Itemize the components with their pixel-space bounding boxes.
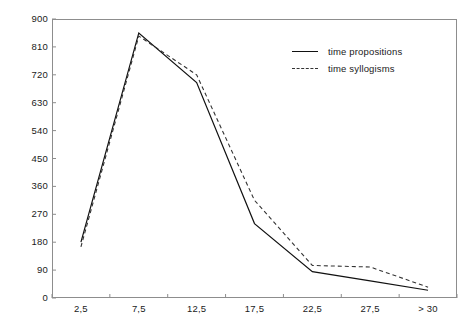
x-tick-label: > 30 [418,303,438,314]
y-tick-label: 0 [0,293,48,303]
x-tick-label: 12,5 [187,303,206,314]
legend-item-time-syllogisms: time syllogisms [292,61,432,78]
x-tick-label: 7,5 [132,303,146,314]
y-tick-label: 900 [0,14,48,24]
y-tick-label: 540 [0,126,48,136]
legend-swatch-solid-line-icon [292,51,318,52]
y-tick-label: 720 [0,70,48,80]
legend-item-time-propositions: time propositions [292,44,432,61]
x-tick-label: 17,5 [245,303,264,314]
x-axis: 2,57,512,517,522,527,5> 30 [0,303,474,323]
x-tick-label: 22,5 [303,303,322,314]
line-chart: 900810720630540450360270180900 2,57,512,… [0,0,474,330]
y-tick-label: 360 [0,181,48,191]
y-axis: 900810720630540450360270180900 [0,0,48,330]
y-tick-label: 180 [0,237,48,247]
y-tick-label: 270 [0,209,48,219]
legend-label-time-propositions: time propositions [328,44,402,59]
chart-legend: time propositions time syllogisms [292,44,432,78]
y-tick-label: 810 [0,42,48,52]
legend-swatch-dashed-line-icon [292,68,318,69]
legend-label-time-syllogisms: time syllogisms [328,61,395,76]
x-tick-label: 27,5 [361,303,380,314]
x-tick-label: 2,5 [74,303,88,314]
y-tick-label: 630 [0,98,48,108]
y-tick-label: 90 [0,265,48,275]
y-tick-label: 450 [0,154,48,164]
